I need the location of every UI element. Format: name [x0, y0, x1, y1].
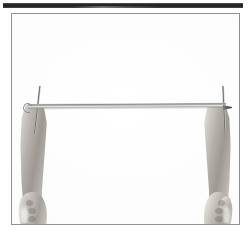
page-root [0, 0, 251, 238]
right-knuckle-1 [218, 200, 225, 206]
right-knuckle-3 [215, 216, 223, 222]
photo-frame [11, 13, 240, 225]
top-rule-highlight [6, 6, 246, 11]
left-knuckle-2 [28, 208, 36, 214]
right-arm [193, 94, 239, 224]
photo-image [12, 14, 239, 224]
left-knuckle-3 [28, 216, 36, 222]
right-knuckle-2 [215, 208, 223, 214]
left-hand-highlight [21, 206, 28, 224]
top-rule [3, 3, 243, 8]
left-knuckle-1 [26, 200, 33, 206]
right-hand-highlight [223, 206, 230, 224]
